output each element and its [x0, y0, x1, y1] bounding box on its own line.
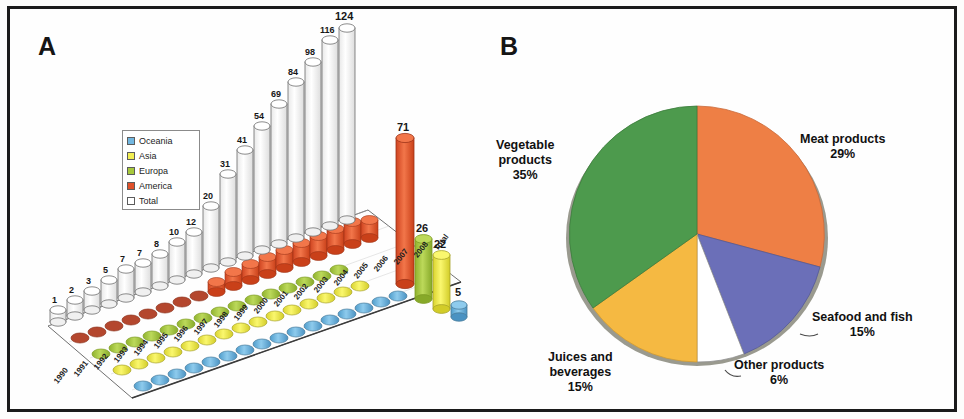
legend-label-europa: Europa — [139, 166, 168, 176]
legend-item-oceania: Oceania — [127, 134, 196, 148]
bar-value-1996: 8 — [154, 239, 159, 249]
legend-item-asia: Asia — [127, 149, 196, 163]
legend-item-europa: Europa — [127, 164, 196, 178]
bar-value-1998: 12 — [186, 217, 196, 227]
legend-swatch-asia — [127, 152, 135, 160]
bar-value-1999: 20 — [203, 191, 213, 201]
legend-label-oceania: Oceania — [139, 136, 173, 146]
bar-value-2007: 124 — [335, 10, 353, 22]
bar-value-1994: 7 — [120, 254, 125, 264]
legend-label-america: America — [139, 181, 172, 191]
pie-label-meat-products: Meat products 29% — [800, 132, 885, 162]
pie-label-seafood-line1: Seafood and fish — [812, 310, 913, 324]
bar-value-total-america: 71 — [397, 121, 409, 133]
bar-value-2001: 41 — [237, 135, 247, 145]
pie-label-seafood-and-fish: Seafood and fish 15% — [812, 310, 913, 340]
bar-value-2003: 69 — [271, 89, 281, 99]
pie-label-other-products: Other products 6% — [734, 358, 824, 388]
panel-b-pie-chart: Vegetable products 35% Meat products 29%… — [482, 14, 958, 406]
pie-label-vegetable-line2: products — [498, 153, 551, 167]
legend-label-asia: Asia — [139, 151, 157, 161]
bar-value-2004: 84 — [288, 67, 298, 77]
bar-chart-svg — [12, 14, 480, 406]
pie-label-vegetable-products: Vegetable products 35% — [496, 138, 554, 183]
legend-swatch-europa — [127, 167, 135, 175]
pie-label-juices-line1: Juices and — [548, 350, 613, 364]
pie-label-vegetable-line1: Vegetable — [496, 138, 554, 152]
pie-label-juices-line2: beverages — [549, 365, 611, 379]
pie-label-other-percent: 6% — [770, 373, 788, 387]
bar-value-total-oceania: 5 — [455, 286, 461, 298]
legend-swatch-total — [127, 197, 135, 205]
bar-value-1990: 1 — [52, 295, 57, 305]
bar-value-1992: 3 — [86, 276, 91, 286]
bar-value-1991: 2 — [69, 285, 74, 295]
legend-item-america: America — [127, 179, 196, 193]
legend-label-total: Total — [139, 196, 158, 206]
legend-swatch-america — [127, 182, 135, 190]
pie-label-other-line1: Other products — [734, 358, 824, 372]
pie-label-vegetable-percent: 35% — [513, 168, 538, 182]
bar-value-2006: 116 — [320, 25, 335, 35]
bar-value-1993: 5 — [103, 265, 108, 275]
pie-chart-svg — [482, 14, 958, 406]
bar-value-2005: 98 — [305, 47, 315, 57]
bar-value-total-europa: 26 — [416, 222, 428, 234]
chart-legend: Oceania Asia Europa America Total — [122, 130, 200, 210]
pie-label-meat-percent: 29% — [830, 147, 855, 161]
pie-label-juices-and-beverages: Juices and beverages 15% — [548, 350, 613, 395]
bar-value-2000: 31 — [220, 159, 230, 169]
bar-value-1997: 10 — [169, 227, 179, 237]
panel-a-bar-chart: Oceania Asia Europa America Total 1 2 3 … — [12, 14, 480, 406]
legend-swatch-oceania — [127, 137, 135, 145]
pie-label-juices-percent: 15% — [568, 380, 593, 394]
legend-item-total: Total — [127, 194, 196, 208]
bar-value-2002: 54 — [254, 111, 264, 121]
pie-label-seafood-percent: 15% — [812, 325, 913, 340]
figure-root: A — [0, 0, 964, 419]
pie-label-meat-line1: Meat products — [800, 132, 885, 146]
bar-value-1995: 7 — [137, 248, 142, 258]
